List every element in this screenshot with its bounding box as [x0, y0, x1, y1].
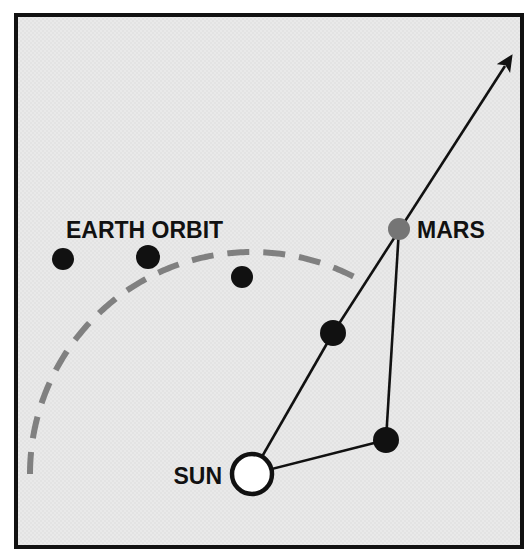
sun-symbol [232, 454, 272, 494]
earth-orbit-label: EARTH ORBIT [66, 217, 223, 243]
earth-position-dot-3 [231, 266, 253, 288]
orbit-diagram-canvas: EARTH ORBIT MARS SUN [0, 0, 524, 557]
earth-position-dot-1 [52, 248, 74, 270]
earth-position-dot-2 [136, 245, 160, 269]
orbit-diagram-root: EARTH ORBIT MARS SUN [0, 0, 524, 557]
mars-label: MARS [417, 217, 485, 243]
mars-dot [388, 218, 410, 240]
earth-position-dot-4 [320, 320, 346, 346]
earth-position-dot-5 [373, 427, 399, 453]
sun-label: SUN [173, 463, 222, 489]
